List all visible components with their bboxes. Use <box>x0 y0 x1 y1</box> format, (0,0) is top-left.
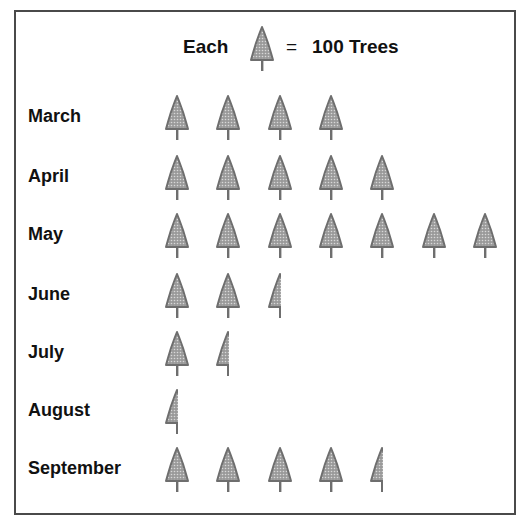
row-may: May <box>0 212 530 262</box>
tree-icon <box>318 154 344 202</box>
legend-equals: = <box>286 36 297 58</box>
tree-icon <box>472 212 498 260</box>
row-label: March <box>28 106 81 127</box>
tree-icon <box>318 94 344 142</box>
row-june: June <box>0 272 530 322</box>
legend: Each = 100 Trees <box>0 25 530 71</box>
tree-icon <box>215 272 241 320</box>
tree-icon <box>164 330 190 378</box>
tree-icon <box>369 212 395 260</box>
row-label: August <box>28 400 90 421</box>
tree-icon <box>215 446 241 494</box>
half-tree-icon <box>215 330 241 378</box>
tree-icon <box>215 94 241 142</box>
tree-icon <box>164 272 190 320</box>
row-label: May <box>28 224 63 245</box>
row-label: July <box>28 342 64 363</box>
row-label: April <box>28 166 69 187</box>
tree-icon <box>164 446 190 494</box>
tree-icon <box>267 446 293 494</box>
row-march: March <box>0 94 530 144</box>
tree-icon <box>369 154 395 202</box>
tree-icon <box>421 212 447 260</box>
row-august: August <box>0 388 530 438</box>
tree-icon <box>318 212 344 260</box>
tree-icon <box>215 154 241 202</box>
half-tree-icon <box>164 388 190 436</box>
tree-icon <box>164 154 190 202</box>
legend-prefix: Each <box>183 36 228 58</box>
row-label: September <box>28 458 121 479</box>
tree-icon <box>164 212 190 260</box>
tree-icon <box>215 212 241 260</box>
row-label: June <box>28 284 70 305</box>
legend-value: 100 Trees <box>312 36 399 58</box>
chart-frame <box>14 10 516 515</box>
tree-icon <box>267 154 293 202</box>
row-july: July <box>0 330 530 380</box>
half-tree-icon <box>369 446 395 494</box>
row-april: April <box>0 154 530 204</box>
half-tree-icon <box>267 272 293 320</box>
tree-icon <box>267 212 293 260</box>
tree-icon <box>249 25 275 73</box>
tree-icon <box>164 94 190 142</box>
tree-icon <box>267 94 293 142</box>
tree-icon <box>318 446 344 494</box>
row-september: September <box>0 446 530 496</box>
